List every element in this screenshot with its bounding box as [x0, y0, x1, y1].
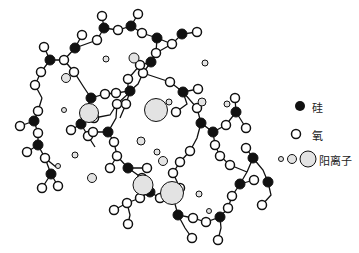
cation-large-legend-icon — [300, 151, 316, 167]
bonds — [20, 14, 271, 240]
cation-small-legend-icon — [279, 157, 284, 162]
cation-medium-legend-icon — [288, 155, 297, 164]
silicon-atoms — [29, 21, 273, 222]
legend — [279, 101, 317, 167]
legend-silicon-label: 硅 — [312, 99, 323, 115]
legend-cation-label: 阳离子 — [319, 152, 352, 168]
legend-oxygen-label: 氧 — [312, 127, 323, 143]
silicate-glass-network-diagram — [0, 0, 359, 253]
silicon-legend-icon — [295, 101, 305, 111]
oxygen-legend-icon — [292, 130, 301, 139]
oxygen-atoms — [16, 10, 267, 245]
